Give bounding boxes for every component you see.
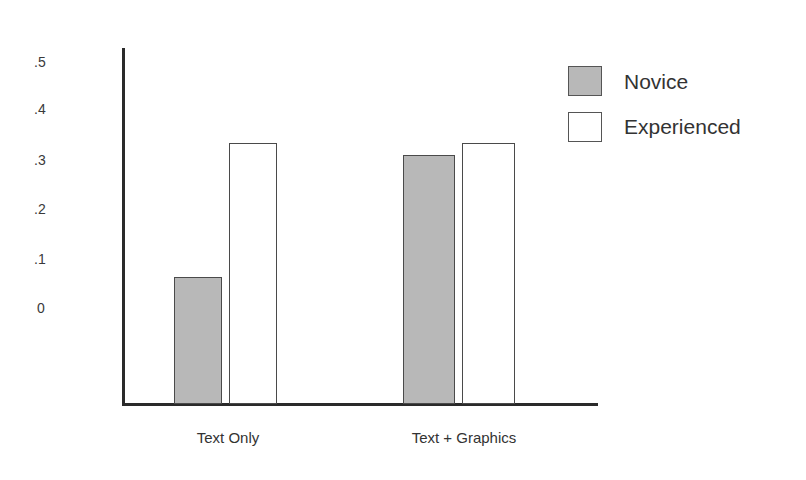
y-axis-line [122,48,125,406]
x-category-label: Text Only [176,429,280,446]
y-tick-label: .3 [34,152,74,168]
legend-swatch-experienced [568,112,602,142]
y-tick-label: .1 [34,251,74,267]
y-tick-label: .5 [34,54,74,70]
y-tick-label: 0 [37,300,77,316]
y-tick-label: .2 [34,201,74,217]
bar-text-only-novice [174,277,222,404]
bar-text-graphics-experienced [462,143,515,404]
bar-text-graphics-novice [403,155,455,404]
legend-swatch-novice [568,66,602,96]
y-tick-label: .4 [34,101,74,117]
legend-label-experienced: Experienced [624,115,741,139]
bar-text-only-experienced [229,143,277,404]
x-category-label: Text + Graphics [389,429,539,446]
legend-label-novice: Novice [624,70,688,94]
